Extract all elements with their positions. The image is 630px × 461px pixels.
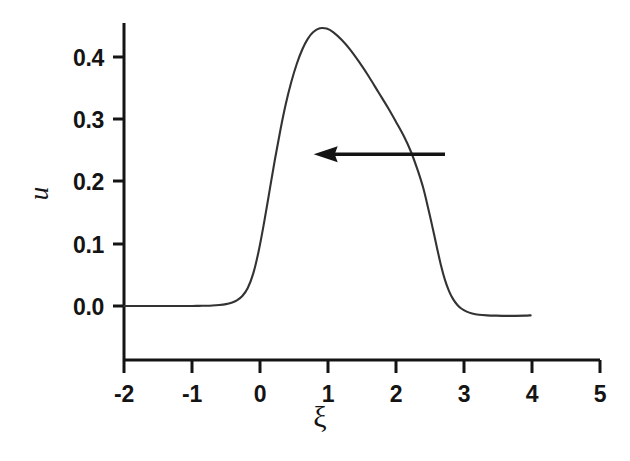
y-tick-label-1: 0.3	[46, 107, 104, 134]
leftward-arrow-icon	[314, 146, 445, 162]
y-tick-label-2: 0.2	[46, 169, 104, 196]
x-tick-label-4: 2	[372, 381, 420, 408]
chart-figure: 0.4 0.3 0.2 0.1 0.0 -2 -1 0 1 2 3 4 5 u …	[0, 0, 630, 461]
y-tick-label-4: 0.0	[46, 294, 104, 321]
y-tick-label-0: 0.4	[46, 45, 104, 72]
x-tick-label-0: -2	[100, 381, 148, 408]
data-curve-u	[124, 28, 531, 316]
x-axis-title: ξ	[300, 400, 340, 434]
y-tick-label-3: 0.1	[46, 232, 104, 259]
x-tick-label-1: -1	[168, 381, 216, 408]
arrow-head	[314, 146, 338, 162]
x-tick-label-6: 4	[508, 381, 556, 408]
x-tick-label-5: 3	[440, 381, 488, 408]
x-tick-label-7: 5	[576, 381, 624, 408]
x-tick-label-2: 0	[236, 381, 284, 408]
x-axis-ticks	[124, 360, 600, 373]
y-axis-title: u	[24, 177, 55, 211]
y-axis-ticks	[113, 57, 124, 306]
